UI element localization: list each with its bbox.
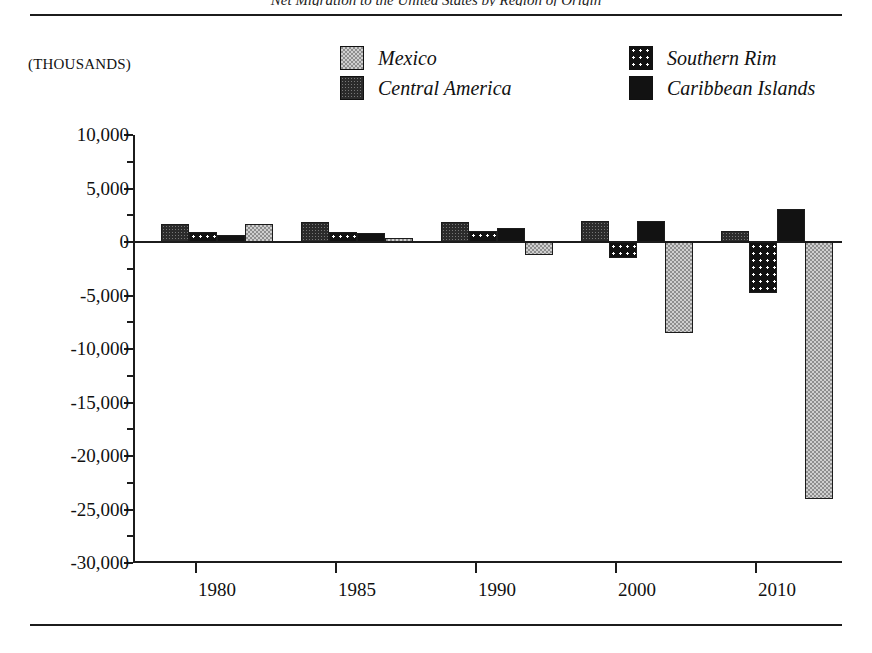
y-tick-minor bbox=[127, 161, 133, 163]
bar-caribbean-2000 bbox=[637, 221, 665, 242]
y-tick-minor bbox=[127, 321, 133, 323]
legend-item-caribbean-islands: Caribbean Islands bbox=[629, 76, 860, 100]
y-tick-label: -15,000 bbox=[70, 392, 129, 414]
black-dotted-swatch-icon bbox=[629, 46, 653, 70]
bottom-rule bbox=[30, 624, 842, 626]
bar-central-2000 bbox=[581, 221, 609, 242]
dark-stippled-swatch-icon bbox=[340, 76, 364, 100]
x-tick bbox=[615, 563, 617, 573]
y-tick-minor bbox=[127, 214, 133, 216]
bar-caribbean-2010 bbox=[777, 209, 805, 242]
bar-central-2010 bbox=[721, 231, 749, 242]
bar-southern-1980 bbox=[189, 232, 217, 242]
y-tick-label: -10,000 bbox=[70, 338, 129, 360]
bar-mexico-1990 bbox=[525, 242, 553, 255]
y-axis-line bbox=[133, 135, 135, 563]
y-tick-label: -20,000 bbox=[70, 445, 129, 467]
y-tick-minor bbox=[127, 482, 133, 484]
figure-container: Net Migration to the United States by Re… bbox=[0, 0, 872, 653]
y-tick-label: 10,000 bbox=[77, 124, 129, 146]
x-tick-label: 1990 bbox=[478, 579, 516, 601]
x-tick bbox=[475, 563, 477, 573]
plot-area: 10,0005,0000-5,000-10,000-15,000-20,000-… bbox=[133, 135, 842, 563]
legend-item-southern-rim: Southern Rim bbox=[629, 46, 860, 70]
bar-caribbean-1990 bbox=[497, 228, 525, 242]
x-tick-label: 2010 bbox=[758, 579, 796, 601]
bar-southern-2000 bbox=[609, 242, 637, 258]
bar-central-1990 bbox=[441, 222, 469, 242]
y-tick-label: 0 bbox=[120, 231, 130, 253]
y-tick-minor bbox=[127, 375, 133, 377]
y-tick-label: -25,000 bbox=[70, 499, 129, 521]
legend-item-mexico: Mexico bbox=[340, 46, 629, 70]
legend-label: Central America bbox=[378, 77, 512, 99]
bar-mexico-1980 bbox=[245, 224, 273, 242]
x-tick bbox=[335, 563, 337, 573]
y-tick-minor bbox=[127, 535, 133, 537]
y-tick-label: -5,000 bbox=[80, 285, 129, 307]
bar-caribbean-1985 bbox=[357, 233, 385, 242]
x-tick bbox=[755, 563, 757, 573]
bar-central-1980 bbox=[161, 224, 189, 242]
bar-southern-1990 bbox=[469, 231, 497, 242]
legend-label: Mexico bbox=[378, 47, 437, 69]
units-label: (THOUSANDS) bbox=[28, 56, 131, 73]
gray-checkered-swatch-icon bbox=[340, 46, 364, 70]
bar-central-1985 bbox=[301, 222, 329, 242]
y-tick-label: 5,000 bbox=[86, 178, 129, 200]
x-tick bbox=[195, 563, 197, 573]
chart-legend: Mexico Southern Rim Central America Cari… bbox=[340, 46, 860, 106]
x-tick-label: 1985 bbox=[338, 579, 376, 601]
y-tick-minor bbox=[127, 268, 133, 270]
top-rule bbox=[30, 14, 842, 16]
bar-mexico-1985 bbox=[385, 238, 413, 242]
y-tick-minor bbox=[127, 428, 133, 430]
legend-label: Southern Rim bbox=[667, 47, 776, 69]
legend-row: Central America Caribbean Islands bbox=[340, 76, 860, 100]
bar-caribbean-1980 bbox=[217, 235, 245, 242]
bar-mexico-2010 bbox=[805, 242, 833, 499]
x-tick-label: 2000 bbox=[618, 579, 656, 601]
y-tick-label: -30,000 bbox=[70, 552, 129, 574]
legend-row: Mexico Southern Rim bbox=[340, 46, 860, 70]
x-axis-line bbox=[133, 561, 842, 563]
legend-item-central-america: Central America bbox=[340, 76, 629, 100]
bar-mexico-2000 bbox=[665, 242, 693, 333]
bar-southern-2010 bbox=[749, 242, 777, 293]
legend-label: Caribbean Islands bbox=[667, 77, 815, 99]
bar-southern-1985 bbox=[329, 232, 357, 242]
x-tick-label: 1980 bbox=[198, 579, 236, 601]
solid-black-swatch-icon bbox=[629, 76, 653, 100]
figure-title: Net Migration to the United States by Re… bbox=[30, 0, 842, 6]
